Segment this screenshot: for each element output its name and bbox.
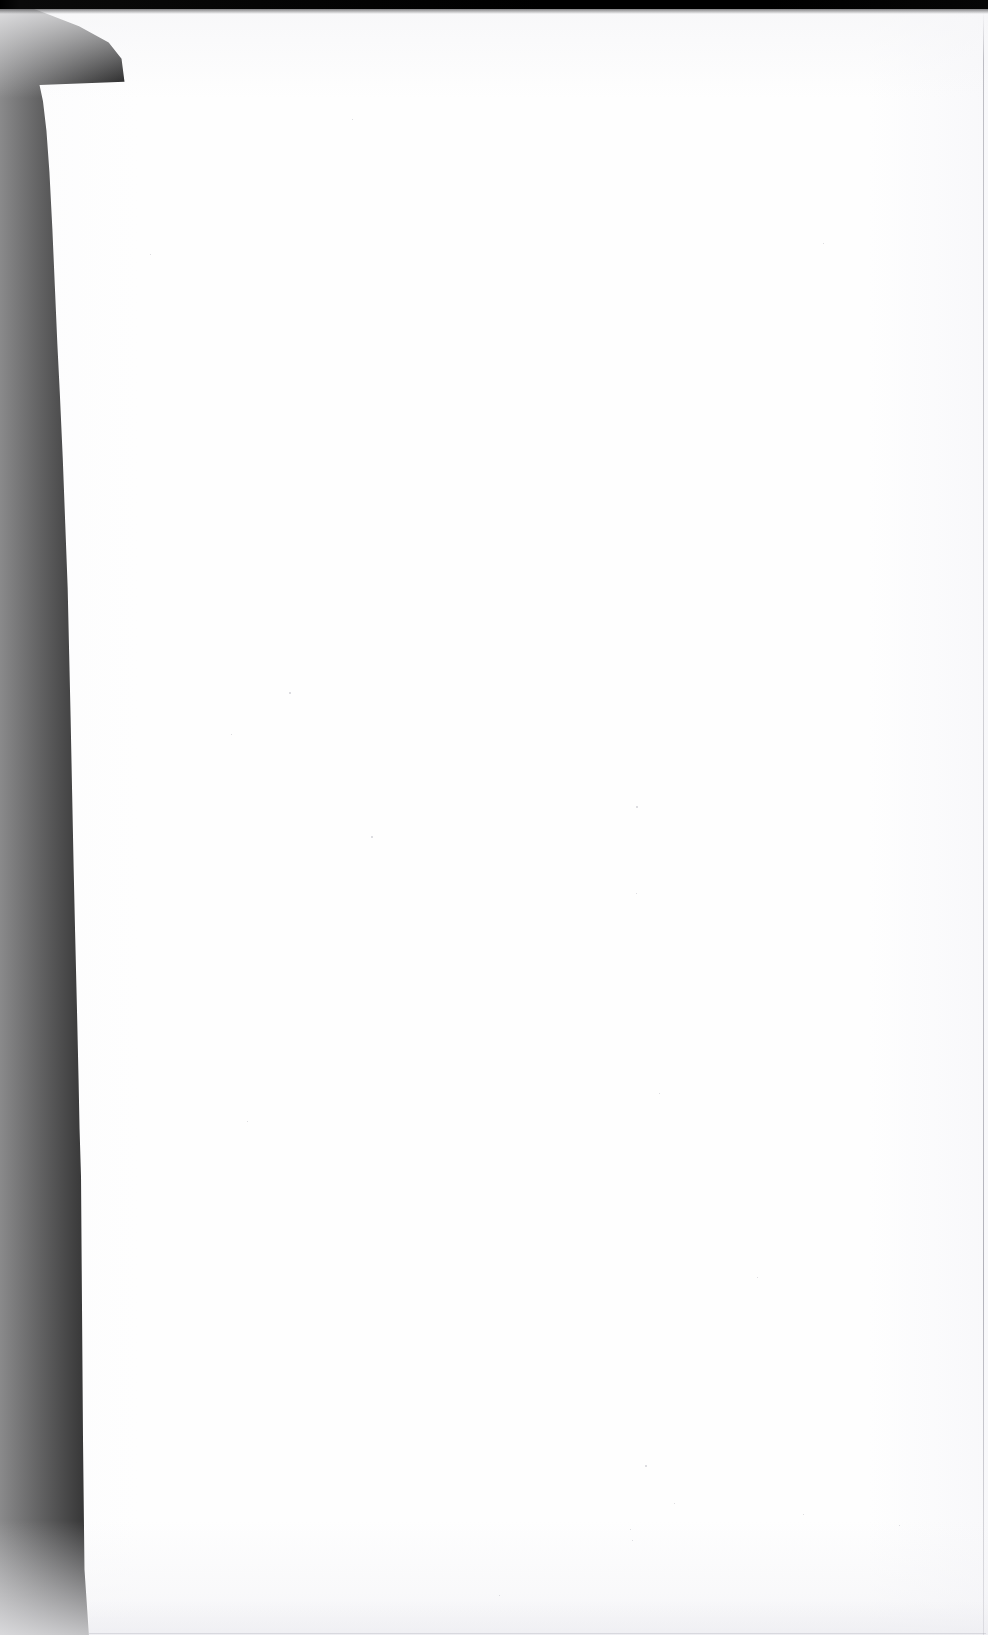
right-page-edge-rule (983, 12, 984, 1635)
paper-sheet (0, 0, 988, 1635)
top-scan-edge-bar (0, 0, 988, 9)
scanned-page-canvas (0, 0, 988, 1635)
